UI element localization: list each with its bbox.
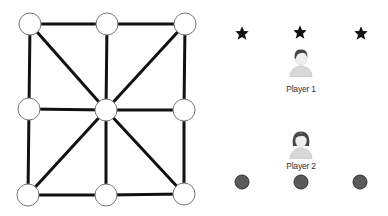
board-line: [106, 24, 107, 110]
board-line: [106, 110, 184, 194]
board-line: [28, 109, 29, 195]
star-piece-icon[interactable]: [234, 25, 250, 41]
board-line: [106, 194, 184, 195]
board-node-top-left[interactable]: [19, 13, 41, 35]
female-avatar-icon: [288, 129, 314, 159]
game-board: [0, 0, 210, 216]
player1-label: Player 1: [271, 84, 331, 94]
male-avatar-icon: [288, 47, 314, 77]
board-node-top-middle[interactable]: [96, 13, 118, 35]
board-node-bottom-middle[interactable]: [95, 184, 117, 206]
star-piece-icon[interactable]: [353, 25, 369, 41]
star-piece-icon[interactable]: [292, 24, 308, 40]
board-node-bottom-left[interactable]: [17, 184, 39, 206]
board-line: [29, 109, 106, 110]
coin-piece-icon[interactable]: [352, 174, 368, 190]
coin-piece-icon[interactable]: [234, 174, 250, 190]
board-line: [106, 24, 185, 110]
board-line: [30, 24, 106, 110]
board-node-middle-left[interactable]: [18, 98, 40, 120]
board-line: [184, 24, 185, 110]
board-node-bottom-right[interactable]: [173, 183, 195, 205]
board-node-middle-right[interactable]: [173, 99, 195, 121]
board-node-center[interactable]: [95, 99, 117, 121]
board-line: [29, 24, 30, 109]
board-node-top-right[interactable]: [174, 13, 196, 35]
coin-piece-icon[interactable]: [293, 174, 309, 190]
player2-label: Player 2: [271, 161, 331, 171]
board-line: [28, 110, 106, 195]
